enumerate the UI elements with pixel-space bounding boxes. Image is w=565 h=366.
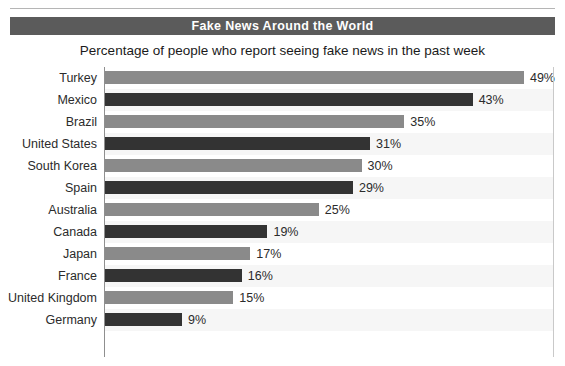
category-label: Brazil [0,111,97,133]
bar-value-label: 25% [325,199,350,221]
category-label: Germany [0,309,97,331]
category-label: United States [0,133,97,155]
bar-value-label: 43% [479,89,504,111]
bar [105,247,250,260]
bar-rows: Turkey49%Mexico43%Brazil35%United States… [0,67,565,331]
category-label: Japan [0,243,97,265]
chart-row: Mexico43% [0,89,565,111]
y-axis-line [104,67,105,357]
chart-subtitle: Percentage of people who report seeing f… [10,44,555,59]
chart-row: Turkey49% [0,67,565,89]
top-divider [10,8,555,9]
bar-value-label: 49% [530,67,555,89]
bar [105,181,353,194]
bar [105,313,182,326]
bar-value-label: 29% [359,177,384,199]
right-gridline [553,67,554,357]
category-label: Turkey [0,67,97,89]
chart-row: Spain29% [0,177,565,199]
chart-row: Germany9% [0,309,565,331]
chart-row: United States31% [0,133,565,155]
chart-page: Fake News Around the World Percentage of… [0,0,565,366]
chart-row: France16% [0,265,565,287]
category-label: France [0,265,97,287]
bar [105,291,233,304]
bar [105,71,524,84]
category-label: Australia [0,199,97,221]
bar-value-label: 31% [376,133,401,155]
bar [105,203,319,216]
chart-row: Japan17% [0,243,565,265]
chart-row: United Kingdom15% [0,287,565,309]
category-label: Mexico [0,89,97,111]
page-title: Fake News Around the World [191,20,373,33]
chart-title-band: Fake News Around the World [10,17,555,35]
bar-value-label: 15% [239,287,264,309]
bar-value-label: 19% [273,221,298,243]
bar-value-label: 9% [188,309,206,331]
chart-row: Brazil35% [0,111,565,133]
plot-area: Turkey49%Mexico43%Brazil35%United States… [0,67,565,366]
chart-row: South Korea30% [0,155,565,177]
chart-row: Canada19% [0,221,565,243]
category-label: Canada [0,221,97,243]
bar-value-label: 17% [256,243,281,265]
bar [105,225,267,238]
chart-row: Australia25% [0,199,565,221]
category-label: Spain [0,177,97,199]
category-label: South Korea [0,155,97,177]
bar [105,159,362,172]
bar [105,137,370,150]
bar [105,93,473,106]
bar-value-label: 35% [410,111,435,133]
bar [105,269,242,282]
category-label: United Kingdom [0,287,97,309]
bar-value-label: 16% [248,265,273,287]
bar-value-label: 30% [368,155,393,177]
bar [105,115,404,128]
